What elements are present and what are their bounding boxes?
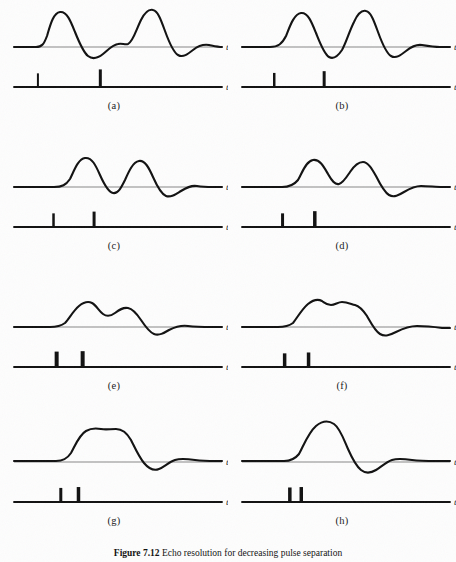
- panel-plot-h: tt: [228, 415, 456, 525]
- waveform-curve: [242, 160, 450, 196]
- figure-caption: Figure 7.12 Echo resolution for decreasi…: [0, 548, 456, 558]
- waveform-curve: [14, 428, 222, 469]
- panel-label-e: (e): [0, 380, 228, 391]
- waveform-curve: [14, 10, 222, 58]
- panel-label-g: (g): [0, 515, 228, 526]
- panel-label-b: (b): [228, 100, 456, 111]
- panel-g: tt(g): [0, 415, 228, 545]
- panel-plot-e: tt: [0, 280, 228, 390]
- panel-e: tt(e): [0, 280, 228, 415]
- panel-plot-b: tt: [228, 0, 456, 110]
- panel-d: tt(d): [228, 140, 456, 280]
- waveform-curve: [14, 302, 222, 335]
- panel-b: tt(b): [228, 0, 456, 140]
- panel-plot-g: tt: [0, 415, 228, 525]
- panel-a: tt(a): [0, 0, 228, 140]
- figure-caption-label: Figure 7.12: [114, 548, 160, 558]
- panel-plot-d: tt: [228, 140, 456, 250]
- panel-h: tt(h): [228, 415, 456, 545]
- waveform-curve: [242, 300, 450, 335]
- panel-label-f: (f): [228, 380, 456, 391]
- panel-label-c: (c): [0, 240, 228, 251]
- panel-plot-a: tt: [0, 0, 228, 110]
- panel-f: tt(f): [228, 280, 456, 415]
- panel-plot-f: tt: [228, 280, 456, 390]
- waveform-curve: [242, 422, 450, 473]
- panel-label-a: (a): [0, 100, 228, 111]
- panel-label-d: (d): [228, 240, 456, 251]
- panel-plot-c: tt: [0, 140, 228, 250]
- figure-container: tt(a)tt(b)tt(c)tt(d)tt(e)tt(f)tt(g)tt(h)…: [0, 0, 456, 562]
- panel-grid: tt(a)tt(b)tt(c)tt(d)tt(e)tt(f)tt(g)tt(h): [0, 0, 456, 545]
- panel-c: tt(c): [0, 140, 228, 280]
- waveform-curve: [14, 158, 222, 197]
- figure-caption-text: Echo resolution for decreasing pulse sep…: [162, 548, 342, 558]
- waveform-curve: [242, 11, 450, 58]
- panel-label-h: (h): [228, 515, 456, 526]
